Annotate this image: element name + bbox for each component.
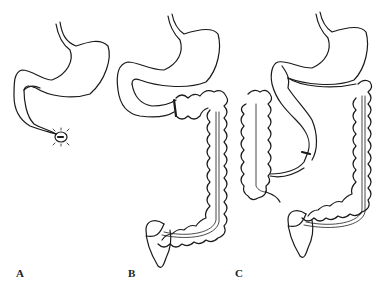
panel-label-a: A [16, 267, 24, 279]
anatomy-figure: A B C [0, 0, 387, 285]
panel-c-drawing [241, 12, 372, 257]
panel-a-drawing [14, 22, 109, 146]
anatomy-illustration [0, 0, 387, 285]
panel-label-b: B [128, 267, 135, 279]
panel-b-drawing [117, 14, 227, 267]
panel-label-c: C [235, 267, 243, 279]
